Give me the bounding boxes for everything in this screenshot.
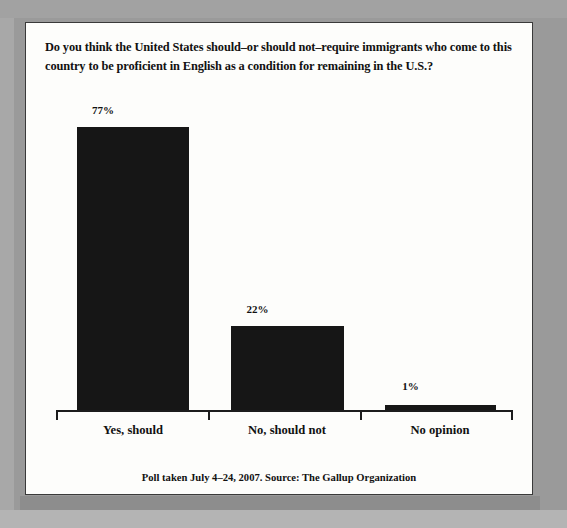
background-top-band [0, 0, 567, 18]
background-bottom-band [0, 510, 567, 528]
x-axis-tick-1 [208, 412, 210, 420]
source-note: Poll taken July 4–24, 2007. Source: The … [26, 472, 532, 483]
x-axis-tick-2 [360, 412, 362, 420]
category-label-yes-should: Yes, should [47, 423, 219, 438]
category-label-no-opinion: No opinion [355, 423, 525, 438]
background-left-band [0, 0, 14, 528]
x-axis-line [56, 410, 513, 412]
screenshot-page: Do you think the United States should–or… [0, 0, 567, 528]
category-label-no-should-not: No, should not [201, 423, 373, 438]
x-axis-tick-0 [56, 412, 58, 420]
bar-no-should-not [231, 326, 344, 410]
bar-yes-should [77, 127, 189, 410]
bar-value-label-no-should-not: 22% [201, 303, 314, 315]
bar-value-label-yes-should: 77% [47, 104, 159, 116]
x-axis-tick-3 [511, 412, 513, 420]
bar-chart-plot-area: 77% 22% 1% Yes, should No, should not No… [26, 23, 532, 494]
bar-value-label-no-opinion: 1% [355, 380, 466, 392]
chart-card: Do you think the United States should–or… [25, 22, 533, 495]
